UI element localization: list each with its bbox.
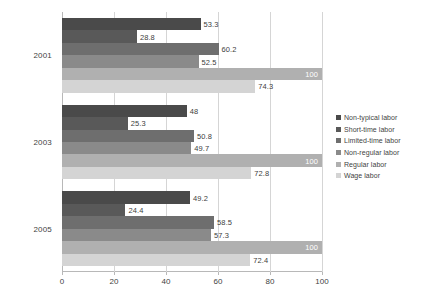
legend-label: Non-regular labor — [344, 149, 399, 156]
category-label: 2001 — [33, 51, 52, 60]
legend-item[interactable]: Short-time labor — [336, 124, 424, 136]
bar-group: 4825.350.849.710072.8 — [62, 105, 322, 180]
bar[interactable] — [62, 130, 194, 142]
tick-mark — [270, 272, 271, 275]
bar-value-label: 72.8 — [254, 169, 269, 178]
tick-mark — [322, 272, 323, 275]
bar[interactable] — [62, 43, 219, 55]
bar-group: 49.224.458.557.310072.4 — [62, 191, 322, 266]
bar[interactable] — [62, 204, 125, 216]
bar-value-label: 24.4 — [128, 205, 143, 214]
plot-area: 53.328.860.252.510074.34825.350.849.7100… — [62, 12, 322, 272]
bar-row: 25.3 — [62, 117, 322, 129]
bar-value-label: 100 — [305, 243, 318, 252]
category-axis: 200120032005 — [0, 12, 62, 272]
bar[interactable] — [62, 80, 255, 92]
legend-item[interactable]: Limited-time labor — [336, 135, 424, 147]
bar[interactable] — [62, 154, 322, 166]
bar-row: 24.4 — [62, 204, 322, 216]
bar-chart: 200120032005 53.328.860.252.510074.34825… — [0, 0, 427, 306]
category-label: 2005 — [33, 224, 52, 233]
bar-value-label: 49.7 — [194, 144, 209, 153]
bar[interactable] — [62, 241, 322, 253]
legend-swatch-icon — [336, 162, 341, 167]
bar-row: 60.2 — [62, 43, 322, 55]
legend-swatch-icon — [336, 173, 341, 178]
bar-row: 100 — [62, 241, 322, 253]
bar-value-label: 74.3 — [258, 82, 273, 91]
value-axis: 020406080100 — [62, 272, 322, 292]
bar-row: 49.7 — [62, 142, 322, 154]
bar[interactable] — [62, 254, 250, 266]
bar-value-label: 100 — [305, 156, 318, 165]
x-tick-label: 100 — [315, 277, 328, 286]
legend-item[interactable]: Regular labor — [336, 158, 424, 170]
bar-value-label: 57.3 — [214, 230, 229, 239]
bar-row: 58.5 — [62, 216, 322, 228]
bar[interactable] — [62, 229, 211, 241]
bar-value-label: 60.2 — [222, 45, 237, 54]
bar-row: 53.3 — [62, 18, 322, 30]
bar[interactable] — [62, 18, 201, 30]
bar[interactable] — [62, 105, 187, 117]
bar-value-label: 49.2 — [193, 193, 208, 202]
bar-row: 50.8 — [62, 130, 322, 142]
bar-value-label: 72.4 — [253, 255, 268, 264]
legend-item[interactable]: Non-typical labor — [336, 112, 424, 124]
bar-value-label: 48 — [190, 106, 199, 115]
legend-label: Non-typical labor — [344, 114, 397, 121]
x-tick-label: 60 — [214, 277, 223, 286]
bar-row: 48 — [62, 105, 322, 117]
bar-row: 74.3 — [62, 80, 322, 92]
bar-value-label: 52.5 — [202, 57, 217, 66]
x-tick-label: 20 — [110, 277, 119, 286]
bar[interactable] — [62, 216, 214, 228]
bar-group: 53.328.860.252.510074.3 — [62, 18, 322, 93]
bar-row: 72.8 — [62, 167, 322, 179]
tick-mark — [114, 272, 115, 275]
category-label: 2003 — [33, 138, 52, 147]
bar-value-label: 58.5 — [217, 218, 232, 227]
bar[interactable] — [62, 117, 128, 129]
bar[interactable] — [62, 68, 322, 80]
legend-label: Regular labor — [344, 161, 387, 168]
chart-legend: Non-typical laborShort-time laborLimited… — [336, 112, 424, 182]
legend-swatch-icon — [336, 115, 341, 120]
legend-item[interactable]: Wage labor — [336, 170, 424, 182]
bar[interactable] — [62, 55, 199, 67]
bar-row: 100 — [62, 154, 322, 166]
legend-swatch-icon — [336, 138, 341, 143]
bar[interactable] — [62, 142, 191, 154]
legend-label: Short-time labor — [344, 126, 395, 133]
bar-value-label: 50.8 — [197, 131, 212, 140]
bar-value-label: 100 — [305, 69, 318, 78]
bar-row: 72.4 — [62, 254, 322, 266]
x-tick-label: 80 — [266, 277, 275, 286]
tick-mark — [218, 272, 219, 275]
legend-label: Wage labor — [344, 172, 380, 179]
bar-value-label: 53.3 — [204, 20, 219, 29]
bar-row: 52.5 — [62, 55, 322, 67]
legend-label: Limited-time labor — [344, 137, 401, 144]
bar[interactable] — [62, 167, 251, 179]
bar-row: 57.3 — [62, 229, 322, 241]
bar-value-label: 28.8 — [140, 32, 155, 41]
bar-value-label: 25.3 — [131, 119, 146, 128]
bar-row: 28.8 — [62, 30, 322, 42]
tick-mark — [62, 272, 63, 275]
x-tick-label: 0 — [60, 277, 64, 286]
legend-swatch-icon — [336, 127, 341, 132]
x-tick-label: 40 — [162, 277, 171, 286]
bar[interactable] — [62, 191, 190, 203]
legend-swatch-icon — [336, 150, 341, 155]
tick-mark — [166, 272, 167, 275]
legend-item[interactable]: Non-regular labor — [336, 147, 424, 159]
bar-row: 100 — [62, 68, 322, 80]
bar-row: 49.2 — [62, 191, 322, 203]
bar[interactable] — [62, 30, 137, 42]
gridline — [322, 12, 323, 272]
